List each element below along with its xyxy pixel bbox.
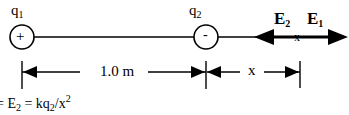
charge-q2-sign: -: [203, 28, 208, 42]
e2-arrowhead-icon: [254, 29, 274, 45]
field-point-marker: x: [294, 31, 300, 43]
charge-q1-sign: +: [16, 29, 24, 44]
distance-q1-q2-label: 1.0 m: [100, 64, 134, 79]
distance-x-label: x: [248, 63, 256, 78]
charge-q2-label: q2: [189, 3, 202, 20]
dim-x-arrow-right-icon: [285, 66, 299, 78]
dim-arrow-left-icon: [23, 66, 37, 78]
charge-q1-label: q1: [11, 3, 24, 20]
field-equation: = E2 = kq2/x2: [0, 94, 71, 113]
dim-arrow-right-icon: [191, 66, 205, 78]
e1-arrowhead-icon: [328, 29, 348, 45]
dim-x-arrow-left-icon: [207, 66, 221, 78]
field-e2-label: E2: [274, 10, 290, 29]
field-e1-label: E1: [307, 10, 323, 29]
